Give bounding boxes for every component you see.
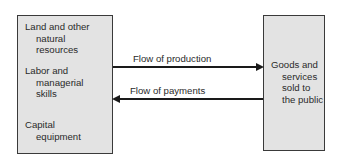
labor-line-2: managerial <box>25 77 83 89</box>
flow-of-production-label: Flow of production <box>133 53 211 64</box>
goods-line-4: the public <box>271 94 323 106</box>
flow-of-payments-arrow <box>118 98 263 100</box>
capital-label: Capital equipment <box>25 119 81 142</box>
factors-of-production-box: Land and other natural resources Labor a… <box>17 15 113 154</box>
flow-of-production-arrow <box>113 66 258 68</box>
goods-and-services-box: Goods and services sold to the public <box>263 15 325 151</box>
land-line-3: resources <box>25 44 90 56</box>
labor-line-3: skills <box>25 88 83 100</box>
flow-of-payments-label: Flow of payments <box>130 85 205 96</box>
goods-label: Goods and services sold to the public <box>271 59 323 105</box>
goods-line-3: sold to <box>271 82 323 94</box>
land-line-2: natural <box>25 33 90 45</box>
labor-label: Labor and managerial skills <box>25 65 83 100</box>
capital-line-2: equipment <box>25 131 81 143</box>
goods-line-1: Goods and <box>271 59 323 71</box>
arrowhead-left-icon <box>112 95 120 103</box>
land-label: Land and other natural resources <box>25 21 90 56</box>
labor-line-1: Labor and <box>25 65 83 77</box>
goods-line-2: services <box>271 71 323 83</box>
arrowhead-right-icon <box>256 63 264 71</box>
land-line-1: Land and other <box>25 21 90 33</box>
capital-line-1: Capital <box>25 119 81 131</box>
